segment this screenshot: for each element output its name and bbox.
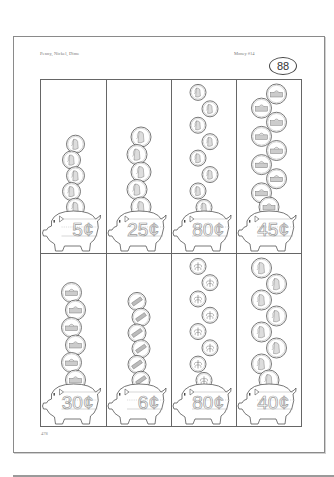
piggy-bank-icon: 80¢ bbox=[173, 384, 231, 424]
nickel-coin-icon bbox=[267, 84, 287, 104]
nickel-coin-icon bbox=[62, 283, 82, 303]
piggy-bank-icon: 40¢ bbox=[238, 384, 296, 424]
penny-coin-icon bbox=[132, 308, 150, 326]
nickel-coin-icon bbox=[252, 290, 272, 310]
dime-coin-icon bbox=[202, 134, 218, 150]
dime-coin-icon bbox=[202, 101, 218, 117]
nickel-coin-icon bbox=[66, 300, 86, 320]
nickel-coin-icon bbox=[252, 155, 272, 175]
nickel-coin-icon bbox=[267, 112, 287, 132]
dime-coin-icon bbox=[190, 150, 206, 166]
page-number: 478 bbox=[41, 431, 48, 436]
cell-r2c1: 30¢ bbox=[41, 254, 107, 426]
amount-label: 25¢ bbox=[127, 219, 159, 240]
piggy-bank-icon: 5¢ bbox=[43, 211, 101, 251]
dime-coin-icon bbox=[202, 340, 218, 356]
dime-stack bbox=[190, 258, 218, 388]
nickel-coin-icon bbox=[127, 145, 147, 165]
amount-label: 30¢ bbox=[62, 392, 94, 413]
dime-coin-icon bbox=[190, 183, 206, 199]
piggy-bank-icon: 30¢ bbox=[43, 384, 101, 424]
nickel-coin-icon bbox=[267, 274, 287, 294]
dime-coin-icon bbox=[190, 258, 206, 274]
dime-coin-icon bbox=[202, 307, 218, 323]
nickel-coin-icon bbox=[131, 127, 151, 147]
cell-r2c3: 80¢ bbox=[172, 254, 237, 426]
piggy-bank-icon: 25¢ bbox=[108, 211, 166, 251]
penny-coin-icon bbox=[63, 151, 81, 169]
penny-coin-icon bbox=[67, 167, 85, 185]
nickel-stack bbox=[127, 127, 151, 217]
nickel-coin-icon bbox=[252, 258, 272, 278]
nickel-stack bbox=[252, 84, 287, 217]
topic-label: Penny, Nickel, Dime bbox=[40, 51, 79, 56]
nickel-coin-icon bbox=[62, 318, 82, 338]
coin-grid: 5¢ 25¢ 80¢ 45¢ 30¢ 6¢ 80¢ 40¢ bbox=[40, 79, 302, 427]
penny-coin-icon bbox=[128, 355, 146, 373]
penny-stack bbox=[63, 135, 85, 216]
amount-label: 45¢ bbox=[257, 219, 289, 240]
dime-coin-icon bbox=[190, 324, 206, 340]
nickel-coin-icon bbox=[252, 98, 272, 118]
cell-r1c2: 25¢ bbox=[107, 80, 172, 254]
page-badge: 88 bbox=[269, 57, 297, 75]
penny-coin-icon bbox=[128, 292, 146, 310]
dime-coin-icon bbox=[190, 117, 206, 133]
penny-coin-icon bbox=[128, 324, 146, 342]
cell-r1c4: 45¢ bbox=[237, 80, 301, 254]
amount-label: 5¢ bbox=[72, 219, 93, 240]
amount-label: 40¢ bbox=[257, 392, 289, 413]
amount-label: 80¢ bbox=[192, 219, 224, 240]
penny-coin-icon bbox=[63, 182, 81, 200]
nickel-coin-icon bbox=[267, 141, 287, 161]
nickel-coin-icon bbox=[252, 126, 272, 146]
penny-stack bbox=[128, 292, 150, 389]
dime-coin-icon bbox=[202, 167, 218, 183]
piggy-bank-icon: 6¢ bbox=[108, 384, 166, 424]
penny-coin-icon bbox=[67, 135, 85, 153]
dime-coin-icon bbox=[190, 356, 206, 372]
dime-coin-icon bbox=[202, 275, 218, 291]
amount-label: 6¢ bbox=[138, 392, 159, 413]
nickel-coin-icon bbox=[252, 322, 272, 342]
piggy-bank-icon: 80¢ bbox=[173, 211, 231, 251]
dime-stack bbox=[190, 84, 218, 215]
nickel-coin-icon bbox=[62, 353, 82, 373]
nickel-coin-icon bbox=[131, 162, 151, 182]
cell-r1c3: 80¢ bbox=[172, 80, 237, 254]
worksheet-title: Money #14 bbox=[234, 51, 255, 56]
piggy-bank-icon: 45¢ bbox=[238, 211, 296, 251]
nickel-stack bbox=[252, 258, 287, 390]
nickel-coin-icon bbox=[127, 180, 147, 200]
dime-coin-icon bbox=[190, 291, 206, 307]
nickel-stack bbox=[62, 283, 86, 391]
nickel-coin-icon bbox=[267, 306, 287, 326]
cell-r1c1: 5¢ bbox=[41, 80, 107, 254]
cell-r2c2: 6¢ bbox=[107, 254, 172, 426]
nickel-coin-icon bbox=[267, 169, 287, 189]
nickel-coin-icon bbox=[267, 338, 287, 358]
amount-label: 80¢ bbox=[192, 392, 224, 413]
penny-coin-icon bbox=[132, 340, 150, 358]
dime-coin-icon bbox=[190, 84, 206, 100]
nickel-coin-icon bbox=[66, 335, 86, 355]
cell-r2c4: 40¢ bbox=[237, 254, 301, 426]
